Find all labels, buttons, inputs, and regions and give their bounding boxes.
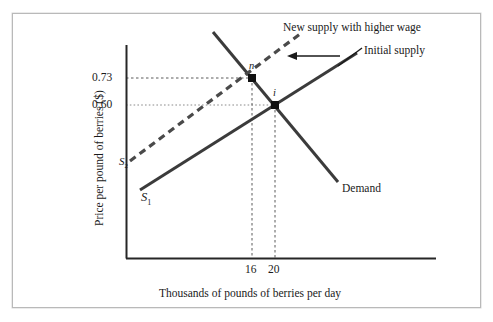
point-label-i: i xyxy=(273,88,276,99)
x-tick-label-16: 16 xyxy=(245,264,257,276)
s2-curve-label: S2 xyxy=(119,156,128,170)
new-supply-label: New supply with higher wage xyxy=(283,22,421,34)
guide-lines xyxy=(126,78,275,258)
supply-demand-figure: Price per pound of berries ($) 0.73 0.60… xyxy=(0,0,493,322)
point-marker-i xyxy=(271,101,279,109)
x-axis-title: Thousands of pounds of berries per day xyxy=(159,288,341,300)
point-label-n: n xyxy=(249,61,254,72)
s1-curve-label: S1 xyxy=(141,191,151,207)
y-tick-label-060: 0.60 xyxy=(92,99,112,111)
y-tick-label-073: 0.73 xyxy=(92,72,112,84)
point-marker-n xyxy=(248,74,256,82)
x-tick-label-20: 20 xyxy=(268,264,280,276)
initial-supply-label: Initial supply xyxy=(364,45,425,57)
demand-label: Demand xyxy=(342,183,381,195)
initial-supply-leader-line xyxy=(338,48,362,66)
s1-subscript: 1 xyxy=(147,198,151,207)
y-axis-title: Price per pound of berries ($) xyxy=(94,90,106,226)
new-supply-annotation-arrow xyxy=(287,52,340,60)
axes xyxy=(126,45,436,259)
s2-subscript: 2 xyxy=(125,162,129,170)
